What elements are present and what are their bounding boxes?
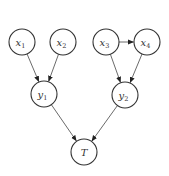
node-subscript: 3 xyxy=(105,42,109,50)
node-subscript: 4 xyxy=(146,42,150,50)
node-T: T xyxy=(71,139,97,165)
edge-x4-to-y2 xyxy=(130,54,142,83)
edge-x3-to-y2 xyxy=(110,54,120,82)
node-y2: y2 xyxy=(112,82,138,108)
node-x4: x4 xyxy=(134,29,160,55)
node-subscript: 2 xyxy=(62,42,66,50)
node-y1: y1 xyxy=(31,81,57,107)
bayesian-network-diagram: x1x2x3x4y1y2T xyxy=(0,0,169,176)
edge-x1-to-y1 xyxy=(27,54,39,82)
edge-y2-to-T xyxy=(92,106,118,141)
node-x1: x1 xyxy=(9,29,35,55)
node-subscript: 1 xyxy=(21,42,25,50)
node-subscript: 2 xyxy=(124,95,128,103)
node-subscript: 1 xyxy=(43,94,47,102)
edge-y1-to-T xyxy=(51,105,76,141)
nodes-group: x1x2x3x4y1y2T xyxy=(9,29,160,165)
node-x2: x2 xyxy=(50,29,76,55)
node-x3: x3 xyxy=(93,29,119,55)
edge-x2-to-y1 xyxy=(49,54,59,81)
